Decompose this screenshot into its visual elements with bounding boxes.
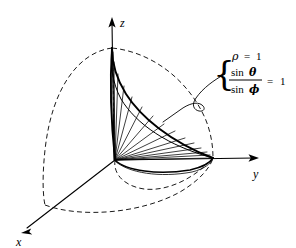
z-axis-label: z: [119, 16, 125, 30]
annotation-line1-relation: =: [244, 50, 250, 62]
annotation-line1-value: 1: [256, 50, 262, 62]
annotation-line2-value: 1: [280, 75, 286, 87]
background: [0, 0, 296, 248]
spherical-surface-diagram: z y x { ρ = 1 sin θ sin ϕ = 1: [0, 0, 296, 248]
annotation-rho-symbol: ρ: [231, 50, 239, 63]
annotation-phi-symbol: ϕ: [249, 83, 260, 96]
annotation-line2-relation: =: [267, 75, 273, 87]
annotation-denominator-fn: sin: [231, 83, 244, 95]
annotation-theta-symbol: θ: [249, 66, 257, 79]
annotation-numerator-fn: sin: [231, 66, 244, 78]
figure-canvas: z y x { ρ = 1 sin θ sin ϕ = 1: [0, 0, 296, 248]
x-axis-label: x: [15, 235, 22, 248]
y-axis-label: y: [252, 167, 259, 181]
